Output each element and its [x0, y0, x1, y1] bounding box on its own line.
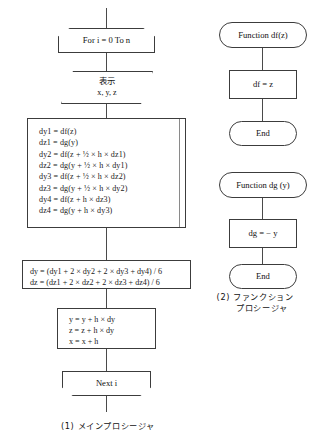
function-df-header: Function df(z)	[219, 22, 307, 48]
update-block-lines: y = y + h × dy z = z + h × dy x = x + h	[69, 314, 149, 348]
function-df-body: df = z	[229, 70, 297, 99]
function-dg-header: Function dg (y)	[219, 172, 307, 198]
connector-display-to-compute	[106, 104, 107, 118]
caption-function-procedure: (2) ファンクション プロシージャ	[196, 292, 314, 314]
function-dg-body: dg = − y	[229, 219, 297, 248]
compute-line: dz4 = dg(y + h × dy3)	[39, 205, 173, 216]
loop-start-label: For i = 0 To n	[83, 35, 130, 45]
display-output-symbol: 表示 x, y, z	[61, 71, 153, 104]
display-label-line1: 表示	[99, 77, 115, 87]
compute-line: dz1 = dg(y)	[39, 137, 173, 148]
loop-end-label: Next i	[96, 378, 117, 388]
function-df-body-label: df = z	[253, 79, 273, 89]
connector-entry	[106, 8, 107, 28]
flowchart-canvas: For i = 0 To n 表示 x, y, z dy1 = df(z) dz…	[0, 0, 316, 446]
function-dg-end-label: End	[256, 271, 270, 281]
update-line: x = x + h	[69, 336, 149, 347]
loop-end-next: Next i	[62, 371, 151, 396]
connector-loopend-exit	[106, 396, 107, 412]
connector-df-header-to-body	[262, 48, 263, 70]
compute-line: dy1 = df(z)	[39, 126, 173, 137]
function-dg-body-label: dg = − y	[248, 228, 277, 238]
function-dg-end: End	[229, 264, 297, 289]
function-df-end: End	[229, 121, 297, 146]
compute-line: dz3 = dg(y + ½ × h × dy2)	[39, 183, 173, 194]
connector-average-to-update	[106, 289, 107, 308]
function-df-end-label: End	[256, 128, 270, 138]
loop-start-for: For i = 0 To n	[58, 28, 155, 53]
connector-compute-to-average	[106, 228, 107, 260]
caption-function-line1: (2) ファンクション	[196, 292, 314, 303]
caption-main-procedure: (1) メインプロシージャ	[18, 421, 198, 432]
update-line: z = z + h × dy	[69, 325, 149, 336]
connector-df-body-to-end	[262, 99, 263, 121]
caption-function-line2: プロシージャ	[196, 303, 314, 314]
display-label-line2: x, y, z	[97, 88, 116, 98]
average-line: dz = (dz1 + 2 × dz2 + 2 × dz3 + dz4) / 6	[30, 277, 184, 288]
update-block: y = y + h × dy z = z + h × dy x = x + h	[57, 308, 156, 349]
compute-line: dy4 = df(z + h × dz3)	[39, 194, 173, 205]
connector-loop-to-display	[106, 53, 107, 71]
compute-line: dy2 = df(z + ½ × h × dz1)	[39, 149, 173, 160]
connector-dg-header-to-body	[262, 198, 263, 219]
average-block-lines: dy = (dy1 + 2 × dy2 + 2 × dy3 + dy4) / 6…	[30, 266, 184, 289]
function-dg-header-label: Function dg (y)	[236, 180, 289, 190]
compute-line: dy3 = df(z + ½ × h × dz2)	[39, 171, 173, 182]
compute-block-lines: dy1 = df(z) dz1 = dg(y) dy2 = df(z + ½ ×…	[39, 126, 173, 217]
average-line: dy = (dy1 + 2 × dy2 + 2 × dy3 + dy4) / 6	[30, 266, 184, 277]
average-block: dy = (dy1 + 2 × dy2 + 2 × dy3 + dy4) / 6…	[22, 260, 191, 289]
connector-dg-body-to-end	[262, 248, 263, 264]
update-line: y = y + h × dy	[69, 314, 149, 325]
compute-block: dy1 = df(z) dz1 = dg(y) dy2 = df(z + ½ ×…	[27, 118, 186, 228]
function-df-header-label: Function df(z)	[238, 30, 287, 40]
connector-update-to-loopend	[106, 349, 107, 371]
compute-line: dz2 = dg(y + ½ × h × dy1)	[39, 160, 173, 171]
